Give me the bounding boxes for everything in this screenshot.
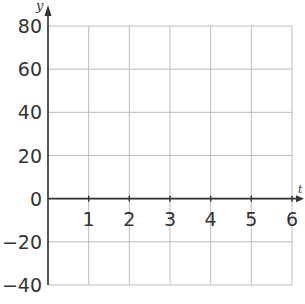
x-tick-label: 4 [205,208,217,230]
y-tick-label: 20 [18,145,42,167]
x-tick-label: 6 [286,208,298,230]
blank-grid-chart: 806040200−20−40 123456 y t [0,0,304,304]
y-axis-label: y [35,0,44,13]
x-axis-arrow-icon [296,195,304,202]
y-tick-label: −20 [2,231,42,253]
y-tick-label: 0 [30,188,42,210]
grid-lines [48,26,292,285]
y-tick-label: 80 [18,15,42,37]
x-tick-label: 1 [83,208,95,230]
y-tick-label: 40 [18,101,42,123]
x-axis-label: t [298,183,303,196]
x-tick-label: 5 [245,208,257,230]
y-tick-label: −40 [2,274,42,296]
y-axis-arrow-icon [45,5,52,16]
x-tick-labels: 123456 [83,208,298,230]
y-tick-labels: 806040200−20−40 [2,15,42,296]
y-tick-label: 60 [18,58,42,80]
axes [45,5,305,285]
x-tick-label: 2 [123,208,135,230]
x-tick-label: 3 [164,208,176,230]
